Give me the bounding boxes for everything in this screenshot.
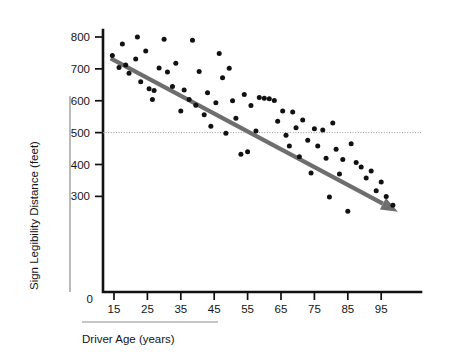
data-point	[152, 88, 157, 93]
data-point	[187, 97, 192, 102]
data-point	[320, 128, 325, 133]
x-tick-label-75: 75	[308, 303, 321, 315]
data-point	[384, 194, 389, 199]
data-point	[123, 63, 128, 68]
x-tick-label-85: 85	[341, 303, 354, 315]
data-point	[157, 65, 162, 70]
x-tick-label-15: 15	[108, 303, 121, 315]
data-point	[290, 109, 295, 114]
data-point	[262, 96, 267, 101]
data-point	[354, 160, 359, 165]
axes-group	[95, 30, 421, 300]
data-point	[257, 95, 262, 100]
data-point	[213, 100, 218, 105]
data-point	[197, 69, 202, 74]
data-point	[345, 209, 350, 214]
y-tick-label-300: 300	[71, 190, 90, 202]
y-tick-label-800: 800	[71, 31, 90, 43]
data-point	[143, 49, 148, 54]
data-point	[173, 61, 178, 66]
x-tick-label-25: 25	[141, 303, 154, 315]
data-point	[182, 87, 187, 92]
data-point	[162, 37, 167, 42]
data-point	[324, 156, 329, 161]
data-point	[190, 38, 195, 43]
data-point	[223, 131, 228, 136]
trend-line-group	[111, 58, 398, 211]
data-point	[238, 152, 243, 157]
data-point	[364, 175, 369, 180]
data-point	[147, 86, 152, 91]
x-axis-title: Driver Age (years)	[82, 333, 175, 345]
data-point	[267, 96, 272, 101]
y-axis-title: Sign Legibility Distance (feet)	[28, 141, 40, 290]
data-point	[359, 165, 364, 170]
data-point	[133, 56, 138, 61]
data-point	[170, 84, 175, 89]
y-tick-label-400: 400	[71, 159, 90, 171]
x-tick-label-45: 45	[208, 303, 221, 315]
data-point	[110, 53, 115, 58]
data-point	[202, 112, 207, 117]
data-point	[217, 51, 222, 56]
data-point	[253, 129, 258, 134]
x-tick-label-35: 35	[174, 303, 187, 315]
data-point	[379, 180, 384, 185]
data-point	[349, 141, 354, 146]
data-point	[294, 125, 299, 130]
data-point	[120, 42, 125, 47]
data-point	[208, 124, 213, 129]
regression-line	[111, 58, 383, 203]
data-point	[242, 92, 247, 97]
data-point	[233, 116, 238, 121]
y-tick-label-700: 700	[71, 63, 90, 75]
data-point	[340, 157, 345, 162]
data-point	[165, 70, 170, 75]
data-point	[275, 119, 280, 124]
data-point	[287, 144, 292, 149]
data-point	[330, 121, 335, 126]
data-point	[193, 103, 198, 108]
y-tick-label-500: 500	[71, 127, 90, 139]
data-point	[309, 171, 314, 176]
data-point	[297, 154, 302, 159]
x-tick-label-55: 55	[241, 303, 254, 315]
y-tick-label-600: 600	[71, 95, 90, 107]
data-point	[205, 90, 210, 95]
x-tick-label-65: 65	[275, 303, 288, 315]
data-point	[272, 98, 277, 103]
data-point	[248, 103, 253, 108]
data-point	[390, 203, 395, 208]
data-point	[178, 108, 183, 113]
data-point	[374, 188, 379, 193]
scatter-plot-figure: Sign Legibility Distance (feet) Driver A…	[0, 0, 449, 357]
data-point	[117, 65, 122, 70]
chart-canvas: Sign Legibility Distance (feet) Driver A…	[0, 0, 449, 357]
data-point	[127, 71, 132, 76]
data-point	[138, 79, 143, 84]
data-point	[369, 168, 374, 173]
data-point	[305, 138, 310, 143]
data-point	[135, 35, 140, 40]
axis-lines	[103, 30, 421, 292]
data-point	[284, 133, 289, 138]
data-point	[315, 144, 320, 149]
data-point	[220, 75, 225, 80]
data-point	[312, 126, 317, 131]
data-point	[150, 97, 155, 102]
y-tick-label-0: 0	[87, 293, 93, 305]
data-point	[245, 149, 250, 154]
data-point	[227, 66, 232, 71]
data-point	[337, 172, 342, 177]
data-point	[230, 98, 235, 103]
data-point	[300, 117, 305, 122]
data-point	[327, 195, 332, 200]
x-tick-label-95: 95	[375, 303, 388, 315]
data-point	[280, 108, 285, 113]
data-point	[334, 147, 339, 152]
